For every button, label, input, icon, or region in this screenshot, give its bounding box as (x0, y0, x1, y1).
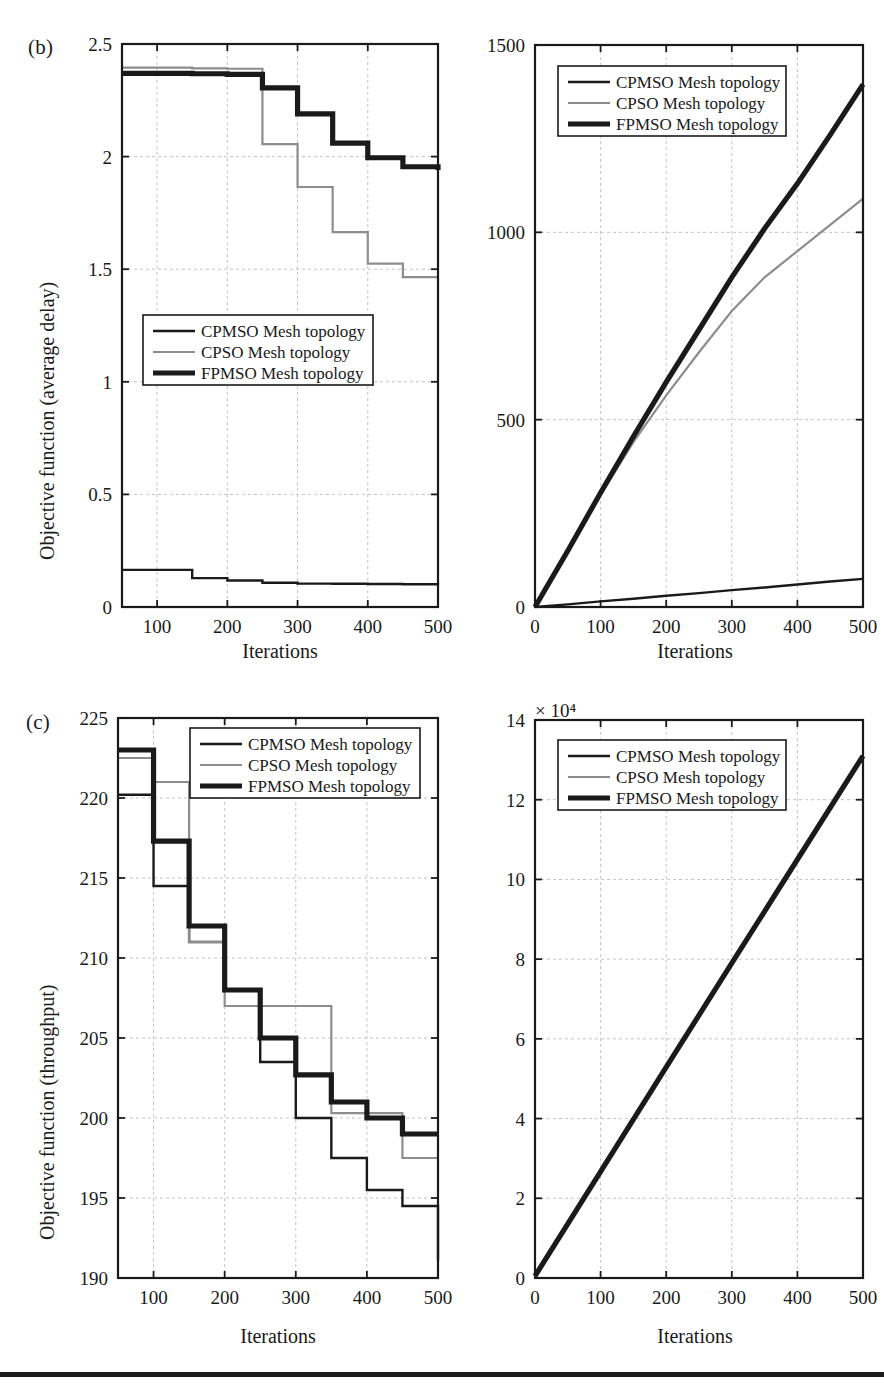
svg-text:200: 200 (213, 616, 242, 637)
panel-c-objective: (c) Objective function (throughput) 1002… (0, 680, 460, 1380)
svg-text:500: 500 (849, 1287, 878, 1308)
svg-text:CPSO Mesh topology: CPSO Mesh topology (248, 756, 398, 775)
svg-text:6: 6 (516, 1029, 526, 1050)
svg-text:CPMSO Mesh topology: CPMSO Mesh topology (201, 322, 366, 341)
svg-text:200: 200 (652, 1287, 681, 1308)
svg-text:CPSO Mesh topology: CPSO Mesh topology (201, 343, 351, 362)
svg-text:300: 300 (718, 1287, 747, 1308)
panel-c-fitness: Fitness function evaluations × 10⁴ 01002… (460, 680, 884, 1380)
page-bottom-rule (0, 1372, 884, 1377)
svg-text:FPMSO Mesh topology: FPMSO Mesh topology (616, 115, 779, 134)
plot-area-c: 100200300400500190195200205210215220225C… (0, 680, 460, 1325)
plot-area-b-fitness: 0100200300400500050010001500CPMSO Mesh t… (460, 0, 884, 640)
plot-area-c-fitness: 010020030040050002468101214CPMSO Mesh to… (460, 680, 884, 1325)
svg-text:210: 210 (80, 948, 109, 969)
svg-text:200: 200 (80, 1108, 109, 1129)
svg-text:400: 400 (783, 1287, 812, 1308)
svg-text:FPMSO Mesh topology: FPMSO Mesh topology (201, 364, 364, 383)
x-axis-label-b: Iterations (122, 640, 438, 663)
svg-text:CPMSO Mesh topology: CPMSO Mesh topology (616, 73, 781, 92)
x-axis-label-b-fitness: Iterations (535, 640, 855, 663)
svg-text:2: 2 (516, 1188, 526, 1209)
svg-text:500: 500 (424, 1287, 453, 1308)
svg-text:0: 0 (516, 1268, 526, 1289)
panel-b-objective: (b) Objective function (average delay) 1… (0, 0, 460, 690)
svg-text:0: 0 (530, 1287, 540, 1308)
svg-text:225: 225 (80, 708, 109, 729)
svg-text:100: 100 (586, 616, 615, 637)
svg-text:2: 2 (103, 147, 113, 168)
svg-text:12: 12 (506, 790, 525, 811)
svg-text:500: 500 (497, 410, 526, 431)
svg-text:100: 100 (139, 1287, 168, 1308)
svg-text:10: 10 (506, 869, 525, 890)
svg-text:CPSO Mesh topology: CPSO Mesh topology (616, 94, 766, 113)
svg-text:1.5: 1.5 (88, 259, 112, 280)
svg-text:0: 0 (530, 616, 540, 637)
svg-text:200: 200 (210, 1287, 239, 1308)
svg-text:0: 0 (103, 597, 113, 618)
x-axis-label-c: Iterations (118, 1325, 438, 1348)
svg-text:4: 4 (516, 1109, 526, 1130)
svg-text:300: 300 (283, 616, 312, 637)
svg-text:500: 500 (424, 616, 453, 637)
svg-text:1: 1 (103, 372, 113, 393)
panel-b-fitness: Fitness function evaluations 01002003004… (460, 0, 884, 690)
svg-text:1500: 1500 (487, 35, 525, 56)
svg-text:190: 190 (80, 1268, 109, 1289)
svg-text:220: 220 (80, 788, 109, 809)
svg-text:FPMSO Mesh topology: FPMSO Mesh topology (248, 777, 411, 796)
svg-text:14: 14 (506, 710, 526, 731)
svg-text:400: 400 (353, 1287, 382, 1308)
figure-root: (b) Objective function (average delay) 1… (0, 0, 884, 1394)
svg-text:FPMSO Mesh topology: FPMSO Mesh topology (616, 789, 779, 808)
svg-text:195: 195 (80, 1188, 109, 1209)
plot-area-b: 10020030040050000.511.522.5CPMSO Mesh to… (0, 0, 460, 640)
svg-text:200: 200 (652, 616, 681, 637)
x-axis-label-c-fitness: Iterations (535, 1325, 855, 1348)
svg-text:8: 8 (516, 949, 526, 970)
svg-text:CPSO Mesh topology: CPSO Mesh topology (616, 768, 766, 787)
svg-text:0.5: 0.5 (88, 484, 112, 505)
svg-text:1000: 1000 (487, 222, 525, 243)
svg-text:500: 500 (849, 616, 878, 637)
svg-text:100: 100 (143, 616, 172, 637)
svg-text:300: 300 (282, 1287, 311, 1308)
svg-text:400: 400 (783, 616, 812, 637)
svg-text:215: 215 (80, 868, 109, 889)
svg-text:400: 400 (354, 616, 383, 637)
svg-text:0: 0 (516, 597, 526, 618)
svg-text:2.5: 2.5 (88, 34, 112, 55)
svg-text:100: 100 (586, 1287, 615, 1308)
svg-text:300: 300 (718, 616, 747, 637)
svg-text:CPMSO Mesh topology: CPMSO Mesh topology (248, 735, 413, 754)
svg-text:205: 205 (80, 1028, 109, 1049)
svg-text:CPMSO Mesh topology: CPMSO Mesh topology (616, 747, 781, 766)
